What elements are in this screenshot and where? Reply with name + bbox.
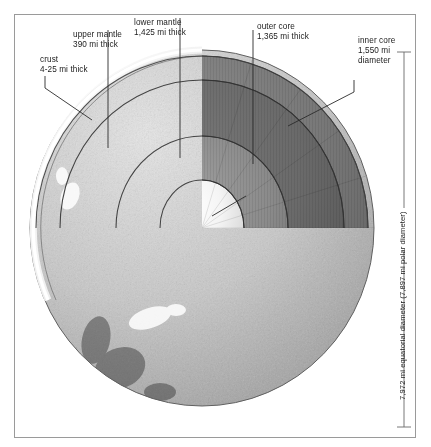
- callout-inner-core-line-2: diameter: [358, 56, 395, 66]
- diagram-canvas: crust 4-25 mi thick upper mantle 390 mi …: [0, 0, 431, 447]
- globe-front-shell: [30, 50, 202, 406]
- callout-upper-mantle-line-0: upper mantle: [73, 30, 122, 40]
- callout-crust-line-1: 4-25 mi thick: [40, 65, 88, 75]
- callout-outer-core: outer core 1,365 mi thick: [257, 22, 309, 42]
- callout-crust-line-0: crust: [40, 55, 88, 65]
- callout-outer-core-line-1: 1,365 mi thick: [257, 32, 309, 42]
- callout-inner-core-line-0: inner core: [358, 36, 395, 46]
- callout-inner-core-line-1: 1,550 mi: [358, 46, 395, 56]
- callout-upper-mantle-line-1: 390 mi thick: [73, 40, 122, 50]
- callout-lower-mantle-line-1: 1,425 mi thick: [134, 28, 186, 38]
- callout-upper-mantle: upper mantle 390 mi thick: [73, 30, 122, 50]
- callout-crust: crust 4-25 mi thick: [40, 55, 88, 75]
- callout-lower-mantle: lower mantle 1,425 mi thick: [134, 18, 186, 38]
- callout-lower-mantle-line-0: lower mantle: [134, 18, 186, 28]
- callout-inner-core: inner core 1,550 mi diameter: [358, 36, 395, 67]
- callout-outer-core-line-0: outer core: [257, 22, 309, 32]
- label-equatorial-diameter: 7,972 mi equatorial diameter (7,897 mi p…: [398, 211, 407, 400]
